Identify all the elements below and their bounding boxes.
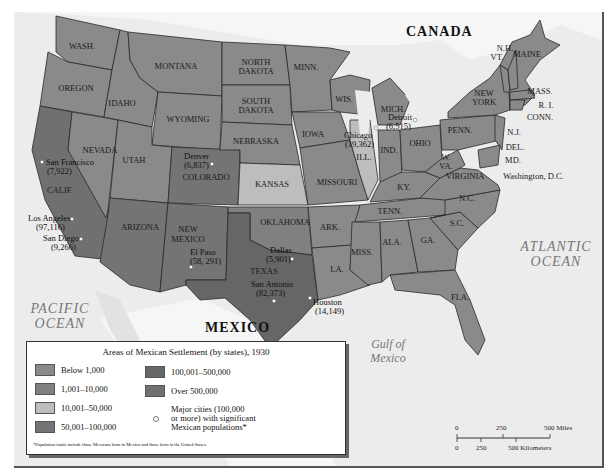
label-dc: Washington, D.C. bbox=[503, 171, 564, 181]
label-del: DEL. bbox=[506, 142, 525, 152]
city-dot-los-angeles bbox=[70, 217, 74, 221]
legend-title: Areas of Mexican Settlement (by states),… bbox=[27, 347, 345, 357]
label-ala: ALA. bbox=[382, 237, 402, 247]
legend-label-1001-10000: 1,001–10,000 bbox=[61, 384, 108, 394]
label-vt: VT. bbox=[491, 52, 504, 62]
label-ny-2: YORK bbox=[472, 97, 497, 107]
legend-swatch-10001-50000 bbox=[35, 402, 55, 414]
label-maine: MAINE bbox=[513, 49, 541, 59]
atlantic-label-1: ATLANTIC bbox=[519, 239, 591, 254]
label-new-mexico-2: MEXICO bbox=[171, 234, 205, 244]
label-idaho: IDAHO bbox=[108, 98, 135, 108]
scale-bar-graphic bbox=[440, 420, 610, 460]
label-fla: FLA. bbox=[451, 292, 469, 302]
city-los-angeles-pop: (97,116) bbox=[36, 222, 65, 232]
label-la: LA. bbox=[330, 264, 343, 274]
label-oklahoma: OKLAHOMA bbox=[260, 217, 310, 227]
scale-miles-0: 0 bbox=[455, 424, 459, 432]
label-mass: MASS. bbox=[527, 86, 552, 96]
label-wis: WIS. bbox=[335, 94, 353, 104]
label-nevada: NEVADA bbox=[83, 145, 119, 155]
city-san-diego-pop: (9,266) bbox=[51, 242, 76, 252]
legend-footnote: *Population totals include those Mexican… bbox=[33, 442, 207, 447]
label-minn: MINN. bbox=[294, 62, 319, 72]
label-sc: S.C. bbox=[450, 218, 465, 228]
legend-label-10001-50000: 10,001–50,000 bbox=[61, 403, 112, 413]
label-utah: UTAH bbox=[123, 155, 146, 165]
label-oregon: OREGON bbox=[58, 83, 93, 93]
city-dallas-pop: (5,901) bbox=[266, 254, 291, 264]
label-montana: MONTANA bbox=[155, 61, 199, 71]
city-dot-denver bbox=[210, 162, 214, 166]
pacific-label-1: PACIFIC bbox=[30, 301, 90, 316]
label-nebraska: NEBRASKA bbox=[233, 136, 280, 146]
city-denver-pop: (6,837) bbox=[184, 160, 209, 170]
state-connecticut bbox=[510, 100, 525, 110]
scale-miles-250: 250 bbox=[496, 424, 507, 432]
label-nc: N.C. bbox=[459, 193, 475, 203]
city-el-paso-pop: (58, 291) bbox=[190, 256, 221, 266]
canada-label: CANADA bbox=[406, 24, 473, 39]
legend-swatch-over-500000 bbox=[145, 385, 165, 397]
label-wva-2: VA. bbox=[439, 161, 452, 171]
legend-swatch-50001-100000 bbox=[35, 421, 55, 433]
legend-cities-line3: Mexican populations* bbox=[171, 422, 247, 432]
label-ri: R. I. bbox=[539, 100, 554, 110]
city-dot-detroit bbox=[413, 118, 417, 122]
label-ohio: OHIO bbox=[409, 138, 430, 148]
scale-bar: 0 250 500 Miles 0 250 500 Kilometers bbox=[440, 420, 610, 460]
label-conn: CONN. bbox=[527, 112, 553, 122]
legend-label-50001-100000: 50,001–100,000 bbox=[61, 422, 116, 432]
legend-label-below-1000: Below 1,000 bbox=[61, 365, 104, 375]
label-missouri: MISSOURI bbox=[317, 177, 358, 187]
label-ga: GA. bbox=[421, 235, 435, 245]
legend-swatch-100001-500000 bbox=[145, 366, 165, 378]
gulf-label-1: Gulf of bbox=[371, 337, 406, 351]
label-wyoming: WYOMING bbox=[167, 114, 210, 124]
pacific-label-2: OCEAN bbox=[35, 316, 86, 331]
label-md: MD. bbox=[505, 155, 521, 165]
label-ind: IND. bbox=[380, 145, 397, 155]
scale-km-0: 0 bbox=[455, 444, 459, 452]
label-ill: ILL. bbox=[356, 152, 371, 162]
label-wash: WASH. bbox=[69, 41, 95, 51]
city-detroit-pop: (6,515) bbox=[386, 121, 411, 131]
legend-swatch-1001-10000 bbox=[35, 383, 55, 395]
city-dot-san-diego bbox=[79, 237, 83, 241]
label-kansas: KANSAS bbox=[255, 179, 289, 189]
label-arizona: ARIZONA bbox=[121, 222, 160, 232]
label-miss: MISS. bbox=[351, 247, 373, 257]
city-dot-san-antonio bbox=[272, 299, 276, 303]
city-chicago-pop: (19,362) bbox=[345, 139, 374, 149]
legend-label-100001-500000: 100,001–500,000 bbox=[171, 367, 231, 377]
label-nd-2: DAKOTA bbox=[238, 66, 274, 76]
label-nj: N.J. bbox=[507, 127, 521, 137]
label-calif: CALIF. bbox=[47, 185, 73, 195]
label-sd-2: DAKOTA bbox=[238, 105, 274, 115]
label-texas: TEXAS bbox=[250, 266, 278, 276]
city-houston-pop: (14,149) bbox=[315, 306, 344, 316]
city-dot-chicago bbox=[374, 126, 378, 130]
city-dot-san-francisco bbox=[40, 160, 44, 164]
scale-km-500: 500 Kilometers bbox=[508, 444, 551, 452]
label-virginia: VIRGINIA bbox=[446, 171, 486, 181]
legend-label-over-500000: Over 500,000 bbox=[171, 386, 218, 396]
label-ky: KY. bbox=[397, 182, 410, 192]
label-ark: ARK. bbox=[320, 222, 340, 232]
city-dot-houston bbox=[308, 296, 312, 300]
legend-city-dot-icon bbox=[153, 416, 159, 422]
label-tenn: TENN. bbox=[378, 206, 403, 216]
city-san-antonio-pop: (82,373) bbox=[256, 288, 285, 298]
mexico-label: MEXICO bbox=[205, 320, 270, 335]
scale-km-250: 250 bbox=[476, 444, 487, 452]
atlantic-label-2: OCEAN bbox=[531, 254, 582, 269]
label-iowa: IOWA bbox=[302, 129, 325, 139]
legend-swatch-below-1000 bbox=[35, 364, 55, 376]
label-nh: N.H. bbox=[497, 43, 514, 53]
label-penn: PENN. bbox=[448, 125, 472, 135]
label-colorado: COLORADO bbox=[182, 172, 229, 182]
map-legend: Areas of Mexican Settlement (by states),… bbox=[26, 341, 346, 455]
scale-miles-500: 500 Miles bbox=[544, 424, 572, 432]
city-san-francisco-pop: (7,922) bbox=[47, 166, 72, 176]
gulf-label-2: Mexico bbox=[369, 351, 405, 365]
